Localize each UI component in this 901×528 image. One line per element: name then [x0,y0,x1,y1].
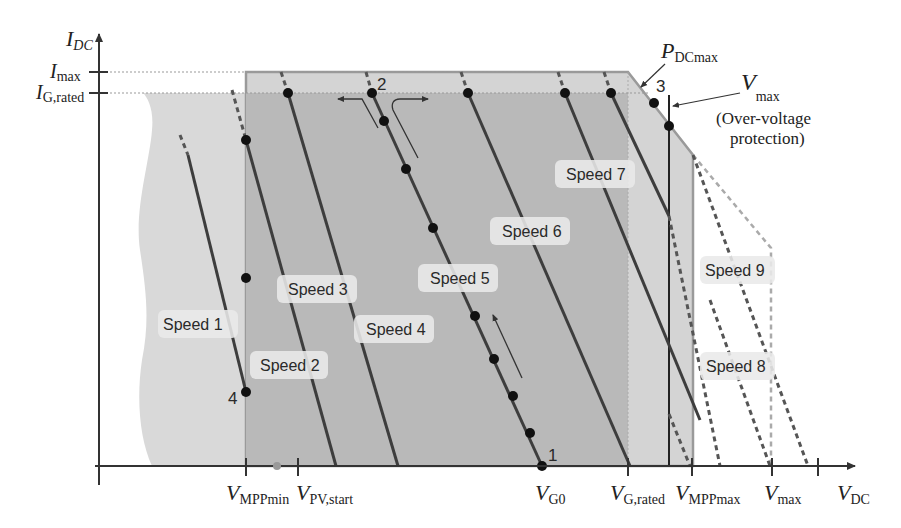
op-point [664,121,674,131]
op-point [525,428,535,438]
point-label-1: 1 [548,446,557,465]
svg-text:Speed 9: Speed 9 [705,262,765,279]
svg-text:Speed 7: Speed 7 [566,166,626,183]
op-point [283,88,293,98]
op-point [470,311,480,321]
op-point [508,391,518,401]
speed-label-2: Speed 2 [250,351,328,379]
speed-label-7: Speed 7 [555,160,635,188]
x-axis-label: VDC [837,480,870,507]
svg-text:Speed 2: Speed 2 [260,357,320,374]
speed-label-8: Speed 8 [700,352,775,380]
pdcmax-label: PDCmax [660,38,718,65]
imax-label: Imax [49,60,81,84]
op-point [401,164,411,174]
y-axis-label: IDC [65,26,93,53]
op-point [489,354,499,364]
vmppmax-label: VMPPmax [675,480,741,507]
point-3 [649,98,659,108]
speed-label-5: Speed 5 [418,264,498,292]
op-point [560,88,570,98]
vmax-axis-label: Vmax [764,480,802,507]
op-point [606,88,616,98]
speed-label-9: Speed 9 [700,256,775,284]
point-label-3: 3 [656,77,665,96]
operating-region-diagram: IDC Imax IG,rated VMPPmin VPV,start VG0 … [0,0,901,528]
op-point [241,273,251,283]
op-point [463,88,473,98]
svg-text:Speed 5: Speed 5 [430,270,490,287]
speed-label-1: Speed 1 [158,310,238,338]
point-2 [367,88,377,98]
pv-start-marker [273,462,281,470]
point-label-4: 4 [228,389,237,408]
svg-text:Speed 1: Speed 1 [163,316,223,333]
op-point [428,223,438,233]
op-point [379,116,389,126]
svg-text:Speed 8: Speed 8 [706,358,766,375]
svg-text:Speed 6: Speed 6 [502,223,562,240]
speed-label-4: Speed 4 [354,315,434,343]
speed-line-9-inner [710,300,770,466]
overvoltage-note-line1: (Over-voltage [716,109,811,128]
vpv-start-label: VPV,start [296,480,353,507]
vg0-label: VG0 [535,480,566,507]
point-4 [241,387,251,397]
ig-rated-label: IG,rated [35,81,84,105]
vmax-pointer [673,93,740,106]
vg-rated-label: VG,rated [610,480,665,507]
speed-label-3: Speed 3 [277,275,357,303]
speed-label-6: Speed 6 [490,217,570,245]
overvoltage-note-line2: protection) [730,129,805,148]
vmppmin-label: VMPPmin [226,480,289,507]
op-point [241,135,251,145]
extended-region-outline [693,155,771,466]
point-label-2: 2 [377,75,386,94]
pv-available-region [139,93,246,466]
vmax-annotation-label: Vmax [741,69,780,104]
svg-text:Speed 4: Speed 4 [366,321,426,338]
svg-text:Speed 3: Speed 3 [288,281,348,298]
